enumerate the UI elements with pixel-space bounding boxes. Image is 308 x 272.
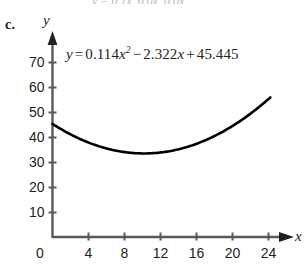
y-tick-label: 60 <box>19 79 45 95</box>
plot-area <box>0 0 308 272</box>
x-axis-arrowhead <box>279 232 294 242</box>
y-tick-label: 20 <box>19 179 45 195</box>
x-tick-label: 8 <box>114 245 136 261</box>
y-axis-arrowhead <box>48 31 58 45</box>
y-tick-label: 40 <box>19 129 45 145</box>
y-tick-label: 10 <box>19 204 45 220</box>
x-tick-label: 24 <box>258 245 280 261</box>
x-tick-label: 20 <box>222 245 244 261</box>
y-tick-label: 30 <box>19 154 45 170</box>
axis-lines <box>48 31 294 242</box>
y-tick-label: 50 <box>19 104 45 120</box>
x-tick-label: 4 <box>78 245 100 261</box>
figure-panel: y = 0.1x, 0.0x, 0.0x c. y x y=0.114x2−2.… <box>0 0 308 272</box>
y-tick-label: 70 <box>19 54 45 70</box>
parabola-curve <box>53 97 271 153</box>
x-tick-label: 16 <box>186 245 208 261</box>
x-tick-label: 12 <box>150 245 172 261</box>
